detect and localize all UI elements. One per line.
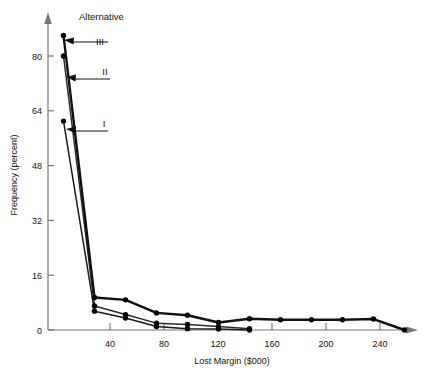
y-tick-48: 48 bbox=[32, 161, 54, 171]
data-point-III-1 bbox=[92, 295, 97, 300]
y-tick-label-48: 48 bbox=[32, 161, 42, 171]
chart-container: 80 64 48 32 16 0 bbox=[0, 0, 426, 374]
data-point-III-9 bbox=[340, 317, 345, 322]
y-tick-0: 0 bbox=[37, 326, 54, 336]
x-axis-title: Lost Margin ($000) bbox=[194, 356, 270, 366]
y-axis-title: Frequency (percent) bbox=[9, 134, 19, 215]
y-tick-label-0: 0 bbox=[37, 326, 42, 336]
data-point-III-2 bbox=[123, 297, 128, 302]
annotation-header-alternative: Alternative bbox=[79, 11, 124, 22]
data-point-III-10 bbox=[371, 316, 376, 321]
data-point-III-8 bbox=[309, 317, 314, 322]
data-point-III-11 bbox=[402, 327, 407, 332]
data-point-III-5 bbox=[216, 320, 221, 325]
x-tick-160: 160 bbox=[264, 323, 279, 349]
y-tick-80: 80 bbox=[32, 52, 54, 62]
y-tick-16: 16 bbox=[32, 271, 54, 281]
data-point-I-0 bbox=[61, 118, 66, 123]
data-point-II-6 bbox=[247, 326, 252, 331]
data-point-III-0 bbox=[61, 33, 66, 38]
y-tick-label-64: 64 bbox=[32, 106, 42, 116]
y-tick-label-80: 80 bbox=[32, 52, 42, 62]
y-axis-arrow-icon bbox=[44, 12, 52, 24]
series-I bbox=[61, 118, 252, 332]
y-tick-label-16: 16 bbox=[32, 271, 42, 281]
data-point-III-3 bbox=[154, 310, 159, 315]
data-point-II-1 bbox=[92, 303, 97, 308]
data-point-III-6 bbox=[247, 316, 252, 321]
y-tick-label-32: 32 bbox=[32, 216, 42, 226]
x-tick-label-240: 240 bbox=[372, 339, 387, 349]
x-tick-240: 240 bbox=[372, 323, 387, 349]
axes-group bbox=[44, 12, 418, 334]
series-III bbox=[61, 33, 407, 333]
annotation-label-II: II bbox=[102, 66, 107, 77]
data-point-I-1 bbox=[92, 308, 97, 313]
data-point-III-7 bbox=[278, 317, 283, 322]
x-axis-arrow-icon bbox=[406, 326, 418, 333]
x-tick-label-80: 80 bbox=[159, 339, 169, 349]
y-axis-ticks: 80 64 48 32 16 0 bbox=[32, 52, 54, 336]
x-tick-label-40: 40 bbox=[105, 339, 115, 349]
series-line-I bbox=[64, 121, 250, 330]
series-II bbox=[61, 53, 252, 331]
y-tick-32: 32 bbox=[32, 216, 54, 226]
series-line-III bbox=[64, 35, 405, 330]
x-tick-label-160: 160 bbox=[264, 339, 279, 349]
x-axis-ticks: 40 80 120 160 200 240 bbox=[105, 323, 388, 349]
data-point-II-3 bbox=[154, 320, 159, 325]
data-series-layer bbox=[61, 33, 407, 333]
x-tick-label-120: 120 bbox=[210, 339, 225, 349]
annotation-label-III: III bbox=[96, 36, 104, 47]
data-point-II-2 bbox=[123, 312, 128, 317]
y-tick-64: 64 bbox=[32, 106, 54, 116]
data-point-III-4 bbox=[185, 313, 190, 318]
frequency-lost-margin-line-chart: 80 64 48 32 16 0 bbox=[0, 0, 426, 374]
x-tick-40: 40 bbox=[105, 323, 115, 349]
annotation-callout-III: III bbox=[64, 36, 108, 47]
annotation-label-I: I bbox=[103, 118, 106, 129]
annotation-callout-II: II bbox=[66, 66, 110, 82]
data-point-II-4 bbox=[185, 322, 190, 327]
x-tick-label-200: 200 bbox=[318, 339, 333, 349]
x-tick-200: 200 bbox=[318, 323, 333, 349]
